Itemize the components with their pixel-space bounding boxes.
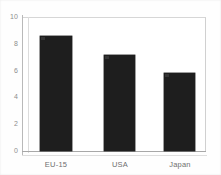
y-tick-label-8: 8 bbox=[4, 40, 18, 48]
bar-usa bbox=[104, 55, 135, 151]
category-axis-outer-rule bbox=[22, 155, 207, 156]
x-category-label-japan: Japan bbox=[157, 160, 203, 169]
bar-japan bbox=[164, 73, 195, 151]
value-axis-inner-rule bbox=[28, 17, 29, 153]
y-tick-label-10: 10 bbox=[4, 13, 18, 21]
y-tick-label-0: 0 bbox=[4, 147, 18, 155]
bar-highlight bbox=[105, 56, 109, 59]
bar-eu-15 bbox=[40, 36, 72, 151]
y-tick-label-6: 6 bbox=[4, 67, 18, 75]
y-tick-label-2: 2 bbox=[4, 120, 18, 128]
value-axis bbox=[22, 15, 23, 155]
y-tick-label-4: 4 bbox=[4, 93, 18, 101]
bar-highlight bbox=[41, 37, 45, 40]
x-category-label-usa: USA bbox=[97, 160, 143, 169]
x-category-label-eu-15: EU-15 bbox=[33, 160, 79, 169]
bar-highlight bbox=[165, 74, 169, 77]
bar-chart: 10 8 6 4 2 0 EU-15 USA Japan bbox=[0, 0, 221, 175]
category-axis bbox=[22, 151, 206, 152]
